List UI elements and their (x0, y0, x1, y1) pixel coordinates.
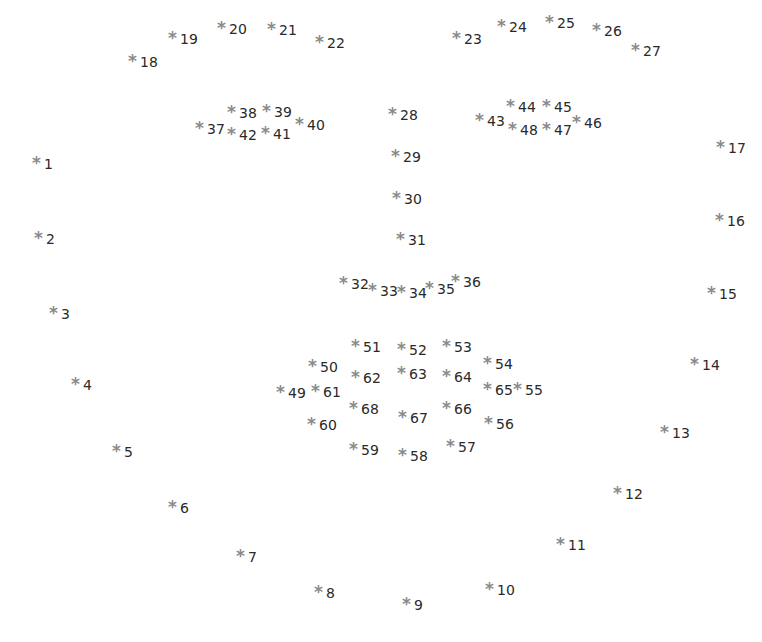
landmark-label: 4 (83, 378, 92, 392)
landmark-point: *41 (260, 125, 291, 142)
landmark-point: *48 (507, 121, 538, 138)
landmark-point: *5 (111, 443, 133, 460)
landmark-label: 15 (719, 287, 737, 301)
landmark-label: 7 (248, 550, 257, 564)
landmark-label: 38 (239, 106, 257, 120)
landmark-label: 42 (239, 128, 257, 142)
landmark-point: *7 (235, 548, 257, 565)
landmark-point: *44 (505, 98, 536, 115)
asterisk-marker-icon: * (167, 499, 178, 516)
landmark-label: 20 (229, 22, 247, 36)
landmark-point: *42 (226, 126, 257, 143)
landmark-point: *33 (367, 282, 398, 299)
asterisk-marker-icon: * (450, 273, 461, 290)
landmark-point: *53 (441, 338, 472, 355)
asterisk-marker-icon: * (260, 125, 271, 142)
asterisk-marker-icon: * (571, 114, 582, 131)
asterisk-marker-icon: * (348, 441, 359, 458)
landmark-label: 54 (495, 357, 513, 371)
asterisk-marker-icon: * (266, 21, 277, 38)
asterisk-marker-icon: * (396, 341, 407, 358)
asterisk-marker-icon: * (48, 305, 59, 322)
asterisk-marker-icon: * (507, 121, 518, 138)
asterisk-marker-icon: * (350, 369, 361, 386)
asterisk-marker-icon: * (541, 98, 552, 115)
asterisk-marker-icon: * (310, 383, 321, 400)
landmark-label: 23 (464, 32, 482, 46)
landmark-point: *51 (350, 338, 381, 355)
landmark-label: 67 (410, 411, 428, 425)
asterisk-marker-icon: * (591, 22, 602, 39)
asterisk-marker-icon: * (424, 280, 435, 297)
landmark-label: 9 (414, 598, 423, 612)
landmark-label: 49 (288, 386, 306, 400)
asterisk-marker-icon: * (350, 338, 361, 355)
landmark-label: 30 (404, 192, 422, 206)
asterisk-marker-icon: * (314, 34, 325, 51)
landmark-point: *62 (350, 369, 381, 386)
landmark-point: *23 (451, 30, 482, 47)
asterisk-marker-icon: * (612, 485, 623, 502)
asterisk-marker-icon: * (441, 338, 452, 355)
landmark-point: *47 (541, 121, 572, 138)
landmark-point: *46 (571, 114, 602, 131)
asterisk-marker-icon: * (70, 376, 81, 393)
asterisk-marker-icon: * (484, 581, 495, 598)
landmark-point: *19 (167, 30, 198, 47)
landmark-point: *17 (715, 139, 746, 156)
landmark-point: *15 (706, 285, 737, 302)
landmark-label: 21 (279, 23, 297, 37)
asterisk-marker-icon: * (348, 400, 359, 417)
landmark-point: *61 (310, 383, 341, 400)
landmark-point: *39 (261, 103, 292, 120)
landmark-label: 29 (403, 150, 421, 164)
landmark-point: *29 (390, 148, 421, 165)
landmark-label: 52 (409, 343, 427, 357)
landmark-label: 22 (327, 36, 345, 50)
landmark-label: 60 (319, 418, 337, 432)
landmark-point: *13 (659, 424, 690, 441)
landmark-label: 13 (672, 426, 690, 440)
landmark-label: 36 (463, 275, 481, 289)
landmark-point: *20 (216, 20, 247, 37)
asterisk-marker-icon: * (387, 106, 398, 123)
landmark-label: 43 (487, 114, 505, 128)
facial-landmark-diagram: *1*2*3*4*5*6*7*8*9*10*11*12*13*14*15*16*… (0, 0, 762, 642)
asterisk-marker-icon: * (306, 416, 317, 433)
landmark-point: *32 (338, 275, 369, 292)
asterisk-marker-icon: * (367, 282, 378, 299)
asterisk-marker-icon: * (396, 365, 407, 382)
landmark-label: 5 (124, 445, 133, 459)
asterisk-marker-icon: * (235, 548, 246, 565)
asterisk-marker-icon: * (33, 230, 44, 247)
landmark-label: 45 (554, 100, 572, 114)
landmark-label: 19 (180, 32, 198, 46)
landmark-label: 55 (525, 383, 543, 397)
landmark-label: 16 (727, 214, 745, 228)
landmark-point: *52 (396, 341, 427, 358)
landmark-label: 26 (604, 24, 622, 38)
asterisk-marker-icon: * (441, 368, 452, 385)
landmark-point: *60 (306, 416, 337, 433)
asterisk-marker-icon: * (226, 126, 237, 143)
landmark-label: 66 (454, 402, 472, 416)
landmark-point: *16 (714, 212, 745, 229)
landmark-point: *56 (483, 415, 514, 432)
landmark-point: *10 (484, 581, 515, 598)
asterisk-marker-icon: * (441, 400, 452, 417)
landmark-point: *30 (391, 190, 422, 207)
landmark-point: *21 (266, 21, 297, 38)
landmark-label: 8 (326, 586, 335, 600)
landmark-label: 28 (400, 108, 418, 122)
asterisk-marker-icon: * (261, 103, 272, 120)
landmark-label: 1 (44, 157, 53, 171)
landmark-label: 12 (625, 487, 643, 501)
landmark-label: 62 (363, 371, 381, 385)
asterisk-marker-icon: * (630, 42, 641, 59)
asterisk-marker-icon: * (396, 284, 407, 301)
landmark-label: 40 (307, 118, 325, 132)
landmark-point: *57 (445, 438, 476, 455)
landmark-label: 24 (509, 20, 527, 34)
asterisk-marker-icon: * (167, 30, 178, 47)
asterisk-marker-icon: * (401, 596, 412, 613)
